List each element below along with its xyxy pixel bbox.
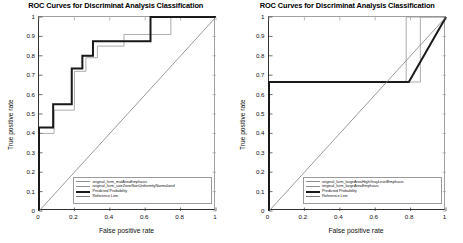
- xtick-label: 0.2: [69, 213, 78, 220]
- xtick-label: 0.4: [104, 213, 113, 220]
- panel-right-xlabel: False positive rate: [268, 227, 445, 234]
- ytick-label: 0.4: [244, 129, 265, 136]
- ytick-label: 0.1: [14, 187, 35, 194]
- xtick-label: 1: [443, 213, 446, 220]
- legend-label: Reference Line: [322, 194, 348, 199]
- xtick-label: 0.6: [369, 213, 378, 220]
- panel-left-title: ROC Curves for Discriminat Analysis Clas…: [0, 1, 232, 10]
- ytick-label: 0.5: [244, 110, 265, 117]
- ytick-label: 0.6: [244, 90, 265, 97]
- ytick-label: 0.3: [244, 148, 265, 155]
- ytick-label: 0.3: [14, 148, 35, 155]
- xtick-label: 0.2: [299, 213, 308, 220]
- ytick-label: 0: [14, 207, 35, 214]
- ytick-label: 0: [244, 207, 265, 214]
- xtick-label: 0.8: [175, 213, 184, 220]
- ytick-label: 0.7: [14, 71, 35, 78]
- legend-swatch-line: [306, 181, 320, 182]
- roc-figure: ROC Curves for Discriminat Analysis Clas…: [0, 0, 463, 243]
- xtick-label: 0.6: [140, 213, 149, 220]
- panel-right-legend: original_lsrm_largeAreaHighGrayLevelEmph…: [303, 177, 442, 204]
- legend-item: Reference Line: [76, 194, 209, 199]
- panel-right-title: ROC Curves for Discriminat Analysis Clas…: [232, 1, 463, 10]
- legend-swatch-line: [76, 181, 90, 182]
- xtick-label: 0.4: [334, 213, 343, 220]
- legend-item: Reference Line: [306, 194, 439, 199]
- ytick-label: 0.5: [14, 110, 35, 117]
- panel-left: ROC Curves for Discriminat Analysis Clas…: [0, 0, 232, 243]
- ytick-label: 0.7: [244, 71, 265, 78]
- panel-left-legend: original_lsrm_matAreaEmphasis original_l…: [73, 177, 212, 204]
- panel-right-ylabel: True positive rate: [239, 99, 246, 150]
- legend-swatch-line: [306, 186, 320, 187]
- ytick-label: 0.9: [244, 32, 265, 39]
- ytick-label: 0.6: [14, 90, 35, 97]
- ytick-label: 0.8: [14, 51, 35, 58]
- panel-left-xlabel: False positive rate: [38, 227, 215, 234]
- ytick-label: 1: [14, 13, 35, 20]
- xtick-label: 0.8: [405, 213, 414, 220]
- xtick-label: 0: [36, 213, 39, 220]
- legend-swatch-line-ref: [306, 196, 320, 197]
- xtick-label: 0: [266, 213, 269, 220]
- legend-swatch-line-ref: [76, 196, 90, 197]
- legend-label: Reference Line: [93, 194, 119, 199]
- ytick-label: 1: [244, 13, 265, 20]
- xtick-label: 1: [213, 213, 216, 220]
- ytick-label: 0.4: [14, 129, 35, 136]
- ytick-label: 0.1: [244, 187, 265, 194]
- ytick-label: 0.2: [14, 168, 35, 175]
- ytick-label: 0.8: [244, 51, 265, 58]
- panel-right: ROC Curves for Discriminat Analysis Clas…: [232, 0, 463, 243]
- ytick-label: 0.9: [14, 32, 35, 39]
- legend-swatch-line-thick: [306, 191, 320, 193]
- ytick-label: 0.2: [244, 168, 265, 175]
- legend-swatch-line-thick: [76, 191, 90, 193]
- legend-swatch-line: [76, 186, 90, 187]
- panel-left-ylabel: True positive rate: [7, 99, 14, 150]
